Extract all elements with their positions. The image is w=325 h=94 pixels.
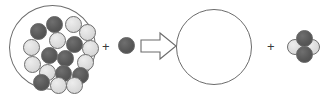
product-cluster	[287, 28, 321, 66]
yields-arrow-icon	[140, 31, 177, 61]
reactant-sphere-dark-1	[46, 16, 63, 33]
product-vessel	[176, 9, 252, 85]
plus-operator-right: +	[267, 40, 275, 53]
free-reactant-sphere	[118, 37, 135, 54]
reaction-diagram: + +	[0, 0, 325, 94]
reactant-sphere-light-6	[23, 39, 40, 56]
reactant-sphere-light-17	[50, 77, 67, 94]
reactant-sphere-dark-4	[30, 23, 47, 40]
product-cluster-sphere-bottom	[296, 46, 313, 63]
plus-operator-left: +	[102, 40, 110, 53]
reactant-sphere-dark-9	[41, 47, 58, 64]
reactant-sphere-light-18	[66, 77, 83, 94]
reactant-sphere-dark-16	[33, 74, 50, 91]
reactant-sphere-light-3	[79, 24, 96, 41]
product-cluster-sphere-top	[296, 30, 313, 47]
